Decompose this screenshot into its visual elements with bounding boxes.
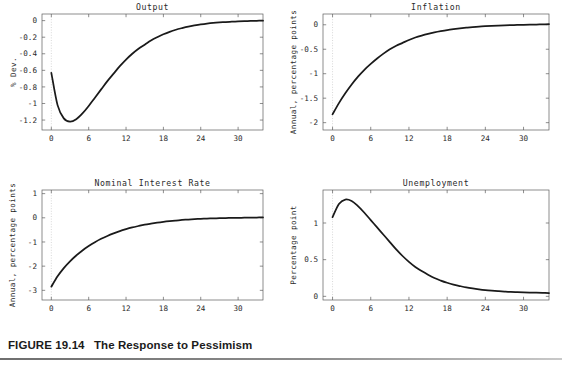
x-tick-label: 18 [159,134,169,143]
x-tick-label: 18 [443,304,453,313]
x-tick-label: 12 [404,304,413,313]
y-tick-label: -1 [28,238,38,247]
panel-title: Unemployment [403,178,469,188]
y-tick-label: 0 [313,20,318,29]
x-tick-label: 6 [86,134,91,143]
y-tick-label: -1.2 [19,116,37,125]
data-series-line [51,21,263,122]
y-tick-label: -0.2 [19,33,37,42]
x-tick-label: 30 [234,304,244,313]
y-tick-label: 1 [313,219,318,228]
caption-divider [0,358,562,360]
y-tick-label: -2 [309,118,318,127]
data-series-line [333,24,549,114]
figure-caption-row: FIGURE 19.14 The Response to Pessimism [0,336,562,366]
y-axis-label: % Dev. [9,57,18,87]
y-tick-label: -0.6 [19,66,38,75]
panel-title: Nominal Interest Rate [94,178,210,188]
x-tick-label: 30 [234,134,244,143]
y-tick-label: 0 [32,213,37,222]
x-tick-label: 30 [519,134,529,143]
x-tick-label: 12 [404,134,413,143]
y-tick-label: 0.5 [304,255,318,264]
data-series-line [51,217,263,286]
y-tick-label: -1.5 [300,94,318,103]
panel-title: Inflation [411,2,461,12]
y-tick-label: -0.8 [19,83,38,92]
figure-caption: FIGURE 19.14 The Response to Pessimism [8,339,252,351]
chart-panel-output: 06121824300-0.2-0.4-0.6-0.8-1-1.2Output%… [0,0,281,168]
data-series-line [333,199,549,293]
chart-panel-inflation: 06121824300-0.5-1-1.5-2InflationAnnual, … [281,0,562,168]
x-tick-label: 24 [196,304,206,313]
x-tick-label: 0 [330,134,335,143]
plot-frame [323,190,549,300]
y-tick-label: -0.5 [300,45,318,54]
y-tick-label: 1 [32,189,37,198]
figure-caption-number: FIGURE 19.14 [8,339,85,351]
y-axis-label: Annual, percentage points [289,10,298,134]
plot-frame [42,190,263,300]
y-tick-label: 0 [32,16,37,25]
x-tick-label: 0 [49,304,54,313]
figure-caption-title: The Response to Pessimism [94,339,252,351]
x-tick-label: 6 [368,134,373,143]
y-tick-label: -1 [309,69,319,78]
x-tick-label: 24 [481,134,491,143]
x-tick-label: 24 [196,134,206,143]
x-tick-label: 0 [49,134,54,143]
x-tick-label: 30 [519,304,529,313]
figure-canvas: 06121824300-0.2-0.4-0.6-0.8-1-1.2Output%… [0,0,562,336]
y-tick-label: -2 [28,262,37,271]
x-tick-label: 24 [481,304,491,313]
chart-panel-unemployment: 061218243010.50UnemploymentPercentage po… [281,172,562,340]
x-tick-label: 18 [443,134,453,143]
y-tick-label: -1 [28,99,38,108]
x-tick-label: 12 [121,304,130,313]
x-tick-label: 18 [159,304,169,313]
y-axis-label: Annual, percentage points [8,183,17,307]
y-tick-label: -3 [28,286,37,295]
plot-frame [42,14,263,130]
x-tick-label: 12 [121,134,130,143]
x-tick-label: 6 [86,304,91,313]
y-tick-label: 0 [313,292,318,301]
chart-panel-nominal-interest-rate: 061218243010-1-2-3Nominal Interest RateA… [0,172,281,340]
x-tick-label: 6 [368,304,373,313]
x-tick-label: 0 [330,304,335,313]
y-tick-label: -0.4 [19,49,38,58]
panel-title: Output [136,2,169,12]
y-axis-label: Percentage point [289,205,298,285]
